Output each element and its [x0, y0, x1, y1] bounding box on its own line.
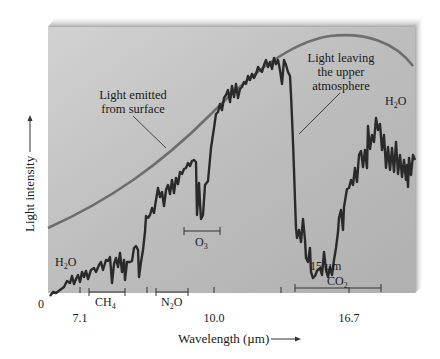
x-axis-label: Wavelength (µm) — [178, 331, 269, 346]
annotation-15-um: 15 µm — [310, 259, 342, 273]
annotation-emitted-line2: from surface — [101, 102, 165, 116]
plot-top-bevel — [48, 16, 424, 27]
plot-right-bevel — [415, 16, 424, 293]
annotation-leaving-line3: atmosphere — [312, 79, 370, 93]
annotation-n2o: N2O — [161, 295, 183, 311]
chart: Light intensity 0 7.1 10.0 16.7 Waveleng… — [0, 0, 440, 359]
x-tick-label-16-7: 16.7 — [339, 311, 360, 325]
y-axis-label: Light intensity — [22, 155, 37, 232]
y-axis-label-group: Light intensity — [22, 115, 37, 232]
y-origin-label: 0 — [38, 297, 44, 311]
annotation-emitted-line1: Light emitted — [99, 88, 167, 102]
annotation-ch4: CH4 — [95, 295, 116, 311]
x-axis-arrowhead-icon — [295, 337, 301, 342]
x-tick-label-10-0: 10.0 — [204, 311, 225, 325]
x-tick-label-7-1: 7.1 — [73, 311, 88, 325]
annotation-leaving-line2: the upper — [318, 65, 366, 79]
y-axis-arrowhead-icon — [28, 115, 33, 121]
annotation-leaving-line1: Light leaving — [308, 51, 376, 65]
